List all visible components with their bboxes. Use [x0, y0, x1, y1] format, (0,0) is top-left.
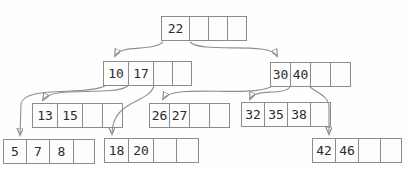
btree-node-42-46: 42 46 — [312, 138, 402, 163]
node-cell-empty — [358, 138, 381, 163]
node-cell: 13 — [32, 103, 58, 128]
node-cell: 7 — [26, 139, 50, 164]
node-cell: 40 — [290, 62, 311, 87]
btree-diagram: 22 10 17 30 40 13 15 26 27 32 35 38 5 — [0, 0, 407, 169]
node-cell: 30 — [270, 62, 291, 87]
node-cell: 15 — [57, 103, 83, 128]
node-cell-empty — [153, 138, 177, 163]
btree-node-root: 22 — [161, 16, 247, 41]
node-cell-empty — [310, 102, 331, 127]
node-cell: 8 — [49, 139, 74, 164]
node-cell: 42 — [312, 138, 336, 163]
node-cell-empty — [102, 103, 123, 128]
node-cell-empty — [208, 16, 228, 41]
node-cell: 10 — [103, 61, 129, 86]
node-cell: 27 — [169, 103, 190, 128]
arrow-root-to-node-10-17 — [115, 42, 163, 56]
node-cell-empty — [82, 103, 103, 128]
node-cell: 20 — [128, 138, 154, 163]
node-cell: 46 — [335, 138, 359, 163]
node-cell: 22 — [161, 16, 190, 41]
node-cell: 18 — [104, 138, 129, 163]
btree-node-26-27: 26 27 — [149, 103, 230, 128]
node-cell-empty — [172, 61, 192, 86]
node-cell-empty — [176, 138, 199, 163]
node-cell: 35 — [264, 102, 288, 127]
node-cell-empty — [310, 62, 331, 87]
node-cell: 38 — [287, 102, 311, 127]
node-cell: 5 — [3, 139, 27, 164]
node-cell-empty — [73, 139, 95, 164]
btree-node-5-7-8: 5 7 8 — [3, 139, 95, 164]
node-cell-empty — [189, 16, 209, 41]
btree-node-13-15: 13 15 — [32, 103, 123, 128]
btree-node-10-17: 10 17 — [103, 61, 192, 86]
node-cell-empty — [209, 103, 230, 128]
btree-node-30-40: 30 40 — [270, 62, 351, 87]
arrow-root-to-node-30-40 — [190, 42, 277, 56]
node-cell-empty — [330, 62, 351, 87]
node-cell-empty — [380, 138, 402, 163]
arrow-node-30-40-to-node-32-35-38 — [250, 87, 290, 99]
arrow-node-10-17-to-node-13-15 — [43, 86, 128, 100]
node-cell: 26 — [149, 103, 170, 128]
node-cell: 17 — [128, 61, 154, 86]
node-cell-empty — [153, 61, 173, 86]
btree-node-32-35-38: 32 35 38 — [241, 102, 331, 127]
node-cell-empty — [189, 103, 210, 128]
arrow-node-30-40-to-node-26-27 — [163, 87, 271, 99]
node-cell-empty — [227, 16, 247, 41]
btree-node-18-20: 18 20 — [104, 138, 199, 163]
node-cell: 32 — [241, 102, 265, 127]
